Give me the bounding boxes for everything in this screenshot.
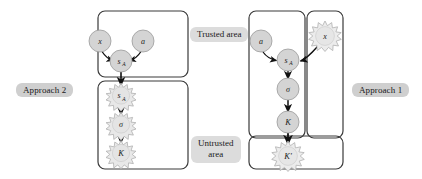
node-label-a2-sa: s	[117, 57, 120, 66]
node-a2-x: x	[89, 30, 111, 52]
untrusted-area-label-line2: area	[208, 149, 223, 160]
untrusted-area-label: Untrusted area	[191, 136, 241, 163]
node-label-a2-sa2: s	[117, 91, 120, 100]
approach1-nodes: a s A σ K x	[250, 21, 341, 172]
edge-a1-x-to-sa	[301, 46, 319, 61]
node-a2-sigma: σ	[106, 112, 136, 140]
trusted-area-label-text: Trusted area	[197, 29, 241, 40]
node-a1-kprime: K′	[272, 141, 305, 172]
node-label-a2-a: a	[141, 37, 145, 46]
approach2-nodes: a x s A s A	[89, 30, 154, 169]
node-label-a2-x: x	[97, 37, 102, 46]
node-label-a1-kprime: K′	[283, 151, 292, 161]
node-sublabel-a2-sa: A	[121, 61, 126, 67]
node-label-a1-a: a	[259, 37, 263, 46]
edge-a1-a-to-sa	[263, 52, 277, 61]
approach-1-label: Approach 1	[352, 83, 409, 97]
node-a1-sa: s A	[277, 49, 299, 71]
node-a1-a: a	[250, 30, 272, 52]
node-sublabel-a2-sa2: A	[121, 96, 126, 102]
node-a2-k: K	[106, 141, 136, 169]
node-sublabel-a1-sa: A	[288, 60, 293, 66]
node-label-a1-x: x	[322, 32, 327, 41]
node-a1-k: K	[277, 111, 299, 133]
node-a1-x: x	[309, 21, 342, 52]
node-a1-sigma: σ	[277, 78, 299, 100]
untrusted-area-label-line1: Untrusted	[198, 138, 234, 149]
diagram-figure: a x s A s A	[0, 0, 422, 179]
approach-2-label: Approach 2	[16, 83, 73, 97]
node-label-a1-sa: s	[284, 56, 287, 65]
node-a2-sa: s A	[110, 50, 132, 72]
trusted-area-label: Trusted area	[190, 27, 248, 42]
node-a2-a: a	[132, 30, 154, 52]
node-a2-sa-untrusted: s A	[106, 83, 136, 111]
